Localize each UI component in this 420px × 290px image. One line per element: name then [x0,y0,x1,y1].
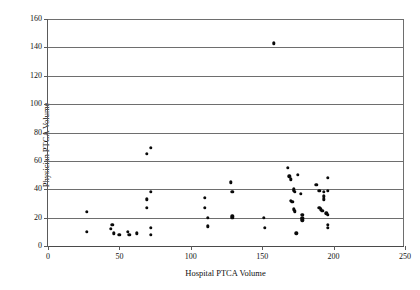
data-point [149,226,152,229]
data-point [145,152,148,155]
data-point [206,224,209,227]
data-point [145,197,148,200]
y-tick-label-120: 120 [30,72,42,80]
gridline-y-20 [48,218,404,219]
gridline-y-40 [48,189,404,190]
gridline-y-100 [48,104,404,105]
gridline-y-160 [48,19,404,20]
data-point [85,210,88,213]
x-tick-50 [119,246,120,250]
x-tick-label-0: 0 [46,253,50,261]
gridline-y-140 [48,47,404,48]
data-point [322,197,325,200]
data-point [326,226,329,229]
data-point [320,209,323,212]
y-tick-120 [44,76,48,77]
y-tick-100 [44,104,48,105]
data-point [149,233,152,236]
x-tick-label-100: 100 [185,253,197,261]
data-point [206,216,209,219]
data-point [286,166,289,169]
y-tick-label-40: 40 [34,185,42,193]
x-tick-label-50: 50 [115,253,123,261]
data-point [145,206,148,209]
data-point [293,210,296,213]
data-point [231,190,234,193]
gridline-y-80 [48,133,404,134]
gridline-y-0 [48,246,404,247]
x-tick-label-150: 150 [256,253,268,261]
data-point [272,41,275,44]
data-point [149,146,152,149]
gridline-y-120 [48,76,404,77]
y-tick-160 [44,19,48,20]
data-point [262,216,265,219]
x-tick-150 [262,246,263,250]
data-point [290,200,293,203]
y-tick-20 [44,218,48,219]
y-tick-40 [44,189,48,190]
x-tick-200 [334,246,335,250]
plot-area: 020406080100120140160 050100150200250 [47,19,404,246]
data-point [315,183,318,186]
y-tick-60 [44,161,48,162]
data-point [229,180,232,183]
data-point [296,173,299,176]
data-point [109,227,112,230]
data-point [300,219,303,222]
data-point [135,232,138,235]
y-tick-label-80: 80 [34,129,42,137]
data-point [112,232,115,235]
data-point [111,223,114,226]
data-point [326,176,329,179]
data-point [326,213,329,216]
y-tick-label-160: 160 [30,15,42,23]
x-tick-0 [48,246,49,250]
scatter-chart: Physician PTCA Volume Hospital PTCA Volu… [0,0,420,290]
data-point [299,192,302,195]
data-point [231,216,234,219]
data-point [263,226,266,229]
data-point [322,190,325,193]
x-tick-label-250: 250 [399,253,411,261]
data-point [203,206,206,209]
x-axis-title: Hospital PTCA Volume [47,268,404,278]
data-point [293,190,296,193]
data-point [85,230,88,233]
x-tick-label-200: 200 [328,253,340,261]
data-point [203,196,206,199]
y-tick-label-20: 20 [34,214,42,222]
x-tick-100 [191,246,192,250]
y-tick-label-140: 140 [30,43,42,51]
data-point [118,233,121,236]
y-tick-140 [44,47,48,48]
data-point [289,178,292,181]
data-point [295,232,298,235]
data-point [318,189,321,192]
y-tick-label-0: 0 [38,242,42,250]
gridline-y-60 [48,161,404,162]
data-point [128,233,131,236]
data-point [149,190,152,193]
x-tick-250 [405,246,406,250]
y-tick-label-60: 60 [34,157,42,165]
data-point [326,189,329,192]
y-tick-label-100: 100 [30,100,42,108]
y-tick-80 [44,133,48,134]
